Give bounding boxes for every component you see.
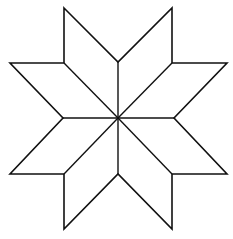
star-diagram: Eight-pointed star composed of eight rho… xyxy=(0,0,233,239)
eight-pointed-star xyxy=(0,0,233,239)
